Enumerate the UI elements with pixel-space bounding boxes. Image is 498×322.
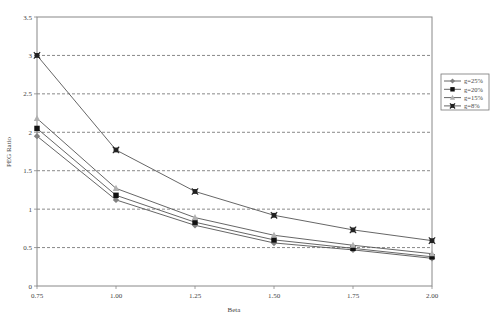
x-marker-icon	[350, 227, 356, 233]
y-tick-label: 2	[29, 129, 33, 137]
legend-label: g=8%	[464, 102, 480, 109]
square-marker-icon	[113, 193, 118, 198]
x-tick-label: 1.00	[110, 292, 123, 300]
x-marker-icon	[271, 212, 277, 218]
series-g-25-	[34, 133, 435, 262]
legend-label: g=25%	[464, 77, 483, 84]
y-tick-label: 3.5	[23, 14, 32, 22]
x-tick-label: 1.25	[189, 292, 202, 300]
x-marker-icon	[192, 188, 198, 194]
plot-area	[37, 17, 432, 286]
x-tick-label: 1.75	[347, 292, 360, 300]
x-tick-label: 1.50	[268, 292, 281, 300]
x-axis: 0.751.001.251.501.752.00	[31, 286, 439, 300]
x-marker-icon	[429, 237, 435, 243]
x-marker-icon	[113, 147, 119, 153]
x-marker-icon	[34, 52, 40, 58]
series-line	[37, 136, 432, 258]
x-tick-label: 0.75	[31, 292, 44, 300]
legend-label: g=15%	[464, 94, 483, 101]
series-line	[37, 128, 432, 256]
y-axis-title: PEG Ratio	[5, 136, 13, 167]
triangle-marker-icon	[113, 185, 119, 191]
x-tick-label: 2.00	[426, 292, 439, 300]
gridlines	[37, 55, 432, 247]
square-marker-icon	[192, 219, 197, 224]
series-g-15-	[34, 115, 435, 256]
y-tick-label: 3	[29, 52, 33, 60]
y-tick-label: 2.5	[23, 90, 32, 98]
legend: g=25%g=20%g=15%g=8%	[441, 74, 489, 110]
series-line	[37, 118, 432, 253]
y-tick-label: 1	[29, 206, 33, 214]
x-marker-icon	[450, 103, 455, 108]
series-line	[37, 55, 432, 240]
triangle-marker-icon	[34, 115, 40, 121]
series-lines	[34, 52, 435, 261]
square-marker-icon	[450, 87, 454, 91]
y-tick-label: 1.5	[23, 167, 32, 175]
legend-label: g=20%	[464, 86, 483, 93]
y-tick-label: 0	[29, 283, 33, 291]
series-g-8-	[34, 52, 435, 244]
series-g-20-	[34, 126, 434, 260]
square-marker-icon	[34, 126, 39, 131]
peg-ratio-chart: 00.511.522.533.5 0.751.001.251.501.752.0…	[0, 0, 498, 322]
x-axis-title: Beta	[228, 306, 242, 314]
y-tick-label: 0.5	[23, 244, 32, 252]
square-marker-icon	[271, 237, 276, 242]
